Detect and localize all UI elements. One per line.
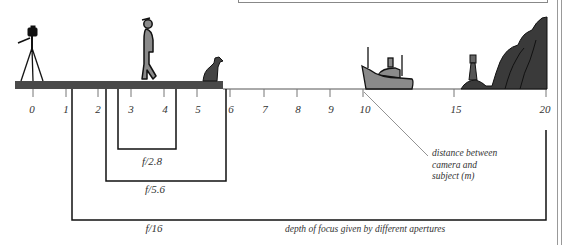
aperture-label-f5-6: f/5.6 [145, 183, 165, 195]
axis-label-note: distance between camera and subject (m) [432, 148, 497, 183]
tick-label-3: 3 [128, 103, 134, 115]
bracket-f28 [118, 89, 176, 149]
diagram-caption: depth of focus given by different apertu… [285, 224, 445, 234]
depth-of-focus-diagram [0, 0, 566, 245]
tick-label-2: 2 [95, 103, 101, 115]
tick-label-0: 0 [29, 103, 35, 115]
tick-label-4: 4 [162, 103, 168, 115]
tick-label-6: 6 [228, 103, 234, 115]
tick-label-9: 9 [328, 103, 334, 115]
aperture-label-f16: f/16 [145, 222, 162, 234]
axis-ticks [33, 89, 546, 97]
tick-label-8: 8 [295, 103, 301, 115]
axis-label-line-1: distance between [432, 148, 497, 160]
tick-label-5: 5 [195, 103, 201, 115]
lighthouse-icon [469, 55, 477, 80]
tick-label-20: 20 [540, 103, 551, 115]
tick-label-15: 15 [451, 103, 462, 115]
dog-icon [203, 57, 223, 81]
ground-bar [15, 81, 223, 89]
aperture-label-f2-8: f/2.8 [142, 155, 162, 167]
boat-icon [362, 47, 413, 89]
axis-label-line-2: camera and [432, 160, 497, 172]
tick-label-1: 1 [63, 103, 69, 115]
person-icon [142, 18, 156, 79]
tick-label-10: 10 [360, 103, 371, 115]
axis-label-leader [364, 92, 428, 156]
camera-tripod-icon [18, 26, 43, 81]
tick-label-7: 7 [262, 103, 268, 115]
axis-label-line-3: subject (m) [432, 171, 497, 183]
